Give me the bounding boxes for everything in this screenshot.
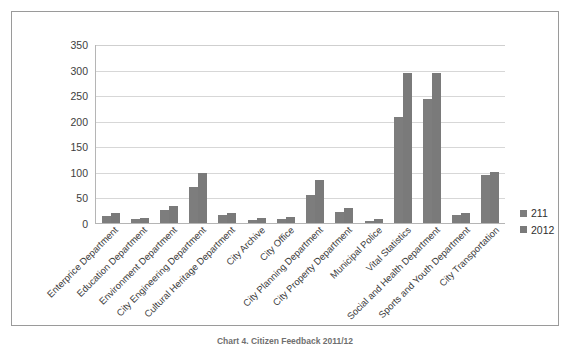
legend-item[interactable]: 211 xyxy=(520,208,568,219)
bar xyxy=(315,180,324,223)
y-axis-tick-label: 0 xyxy=(46,219,88,230)
y-axis-tick-label: 50 xyxy=(46,193,88,204)
chart-legend: 2112012 xyxy=(520,208,568,241)
bar xyxy=(131,219,140,223)
bar-group xyxy=(242,45,271,223)
bar xyxy=(344,208,353,223)
bar-group xyxy=(330,45,359,223)
legend-label: 211 xyxy=(531,208,548,219)
bar xyxy=(198,173,207,223)
bar xyxy=(365,221,374,223)
bar-group xyxy=(388,45,417,223)
bar-group xyxy=(96,45,125,223)
bar xyxy=(227,213,236,223)
bar-group xyxy=(359,45,388,223)
bar xyxy=(218,215,227,223)
legend-swatch-icon xyxy=(520,210,527,217)
bar xyxy=(432,73,441,223)
y-axis-tick-label: 350 xyxy=(46,40,88,51)
bar xyxy=(189,187,198,223)
legend-item[interactable]: 2012 xyxy=(520,225,568,236)
bar xyxy=(481,175,490,223)
bar-group xyxy=(476,45,505,223)
bar xyxy=(461,213,470,223)
bars-layer xyxy=(96,45,505,223)
bar xyxy=(335,212,344,223)
legend-swatch-icon xyxy=(520,226,527,233)
bar xyxy=(169,206,178,223)
bar-group xyxy=(417,45,446,223)
bar xyxy=(452,215,461,223)
bar xyxy=(160,210,169,223)
y-axis-tick-label: 250 xyxy=(46,91,88,102)
bar xyxy=(111,213,120,223)
bar-group xyxy=(447,45,476,223)
y-axis-tick-label: 150 xyxy=(46,142,88,153)
y-axis-tick-label: 200 xyxy=(46,117,88,128)
bar-group xyxy=(125,45,154,223)
figure-caption: Chart 4. Citizen Feedback 2011/12 xyxy=(0,336,570,350)
bar xyxy=(102,216,111,223)
bar-group xyxy=(154,45,183,223)
bar xyxy=(140,218,149,223)
chart-page: 050100150200250300350 Enterprice Departm… xyxy=(0,0,570,350)
bar xyxy=(257,218,266,223)
bar-group xyxy=(271,45,300,223)
bar xyxy=(286,217,295,223)
bar xyxy=(306,195,315,223)
chart-figure-frame: 050100150200250300350 Enterprice Departm… xyxy=(11,11,559,326)
bar-group xyxy=(213,45,242,223)
bar-group xyxy=(184,45,213,223)
plot-area xyxy=(95,45,505,224)
bar xyxy=(248,220,257,223)
bar xyxy=(403,73,412,223)
y-axis-tick-label: 300 xyxy=(46,66,88,77)
legend-label: 2012 xyxy=(531,225,554,236)
bar-group xyxy=(301,45,330,223)
bar xyxy=(277,219,286,223)
y-axis-tick-label: 100 xyxy=(46,168,88,179)
bar xyxy=(490,172,499,223)
bar xyxy=(394,117,403,223)
y-axis: 050100150200250300350 xyxy=(46,38,88,230)
bar xyxy=(423,99,432,223)
bar xyxy=(374,219,383,223)
